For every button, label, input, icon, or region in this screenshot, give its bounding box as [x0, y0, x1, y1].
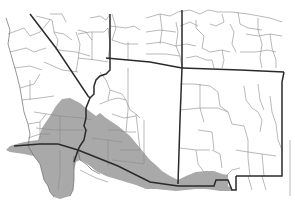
- utah-arizona-border: [106, 58, 182, 68]
- california-nevada-border: [30, 14, 90, 98]
- arizona-newmexico-border: [178, 10, 182, 184]
- nevada-arizona-border: [90, 14, 110, 98]
- colorado-newmexico-border: [182, 68, 284, 72]
- range-map: Species range map — Southwestern North A…: [0, 0, 295, 201]
- map-canvas: [0, 0, 295, 201]
- newmexico-texas-border: [236, 72, 284, 176]
